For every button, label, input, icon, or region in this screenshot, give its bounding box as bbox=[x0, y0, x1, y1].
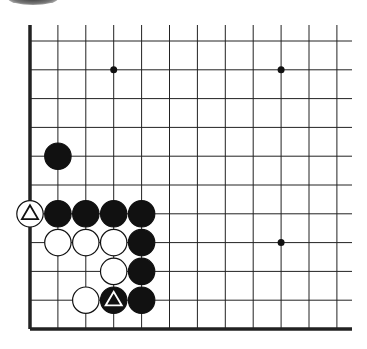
star-point bbox=[110, 66, 117, 73]
black-stone bbox=[128, 258, 154, 284]
white-stone bbox=[45, 229, 71, 255]
go-board bbox=[0, 0, 367, 349]
black-stone bbox=[128, 287, 154, 313]
black-stone bbox=[128, 201, 154, 227]
stone-disc bbox=[101, 229, 127, 255]
black-stone bbox=[45, 201, 71, 227]
stone-disc bbox=[45, 229, 71, 255]
star-point bbox=[278, 239, 285, 246]
white-stone bbox=[101, 258, 127, 284]
stone-disc bbox=[128, 287, 154, 313]
black-stone bbox=[128, 229, 154, 255]
white-stone bbox=[73, 229, 99, 255]
stone-disc bbox=[73, 229, 99, 255]
stone-disc bbox=[73, 201, 99, 227]
stone-disc bbox=[128, 229, 154, 255]
white-stone bbox=[101, 229, 127, 255]
black-stone bbox=[45, 143, 71, 169]
stone-disc bbox=[73, 287, 99, 313]
black-stone bbox=[73, 201, 99, 227]
stone-disc bbox=[101, 258, 127, 284]
stone-disc bbox=[45, 143, 71, 169]
stone-disc bbox=[128, 258, 154, 284]
black-stone bbox=[101, 201, 127, 227]
stone-disc bbox=[128, 201, 154, 227]
white-stone bbox=[73, 287, 99, 313]
stone-disc bbox=[101, 201, 127, 227]
black-stone-marked bbox=[101, 287, 127, 313]
white-stone-marked bbox=[17, 201, 43, 227]
stone-disc bbox=[45, 201, 71, 227]
board-grid bbox=[30, 25, 352, 329]
star-point bbox=[278, 66, 285, 73]
